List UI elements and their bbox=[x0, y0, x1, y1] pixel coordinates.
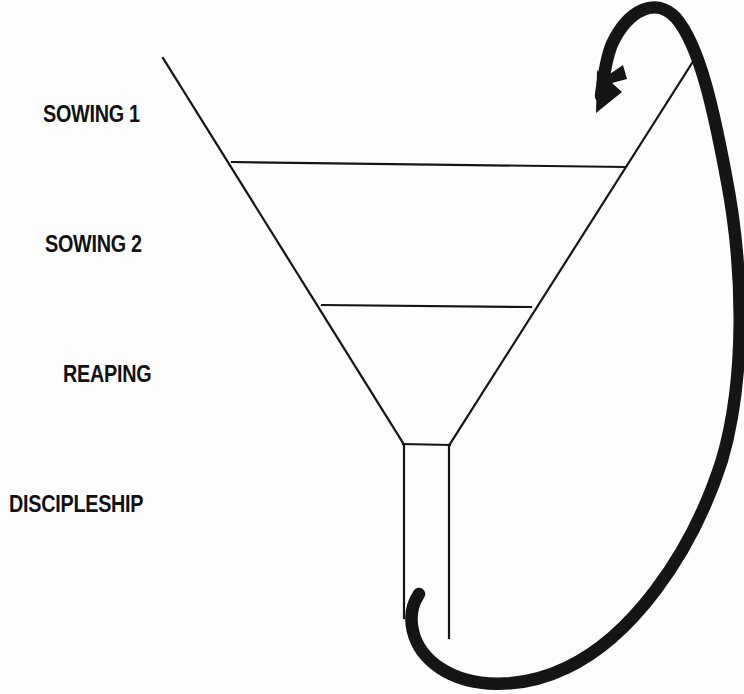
stage-label-sowing-2: SOWING 2 bbox=[45, 233, 142, 256]
cycle-arrow bbox=[412, 7, 740, 683]
funnel-neck-cap bbox=[403, 444, 450, 445]
cycle-arrow-body bbox=[412, 7, 740, 683]
diagram-canvas: SOWING 1 SOWING 2 REAPING DISCIPLESHIP bbox=[0, 0, 744, 694]
funnel-divider-2 bbox=[322, 305, 531, 307]
funnel-right-wall bbox=[450, 60, 694, 444]
funnel-left-wall bbox=[163, 58, 403, 443]
stage-label-sowing-1: SOWING 1 bbox=[43, 103, 140, 126]
funnel-outline bbox=[163, 58, 694, 638]
stage-label-discipleship: DISCIPLESHIP bbox=[9, 493, 143, 516]
stage-label-reaping: REAPING bbox=[63, 363, 151, 386]
funnel-divider-1 bbox=[232, 162, 625, 167]
